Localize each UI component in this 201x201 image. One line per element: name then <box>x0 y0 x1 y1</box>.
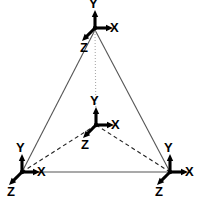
coordinate-frame-center-y-axis-label: Y <box>90 93 99 108</box>
coordinate-frame-center: YXZ <box>81 93 120 152</box>
coordinate-frame-center-x-axis-label: X <box>111 117 120 132</box>
coordinate-frame-top-x-axis-label: X <box>110 20 119 35</box>
coordinate-frame-top-origin <box>93 26 97 30</box>
coordinate-frame-bottom-right-origin <box>168 170 172 174</box>
coordinate-frame-top-z-axis-label: Z <box>80 40 88 55</box>
coordinate-frame-bottom-left: YXZ <box>7 140 46 199</box>
coordinate-frame-bottom-right-x-axis-label: X <box>185 164 194 179</box>
frames-layer: YXZYXZYXZYXZ <box>7 0 194 199</box>
coordinate-frame-bottom-left-origin <box>20 170 24 174</box>
edge-apex-bottom-right <box>95 30 170 172</box>
coordinate-frame-bottom-right: YXZ <box>155 140 194 199</box>
coordinate-frame-top-y-axis-label: Y <box>89 0 98 11</box>
coordinate-frame-bottom-right-y-axis-label: Y <box>164 140 173 155</box>
edge-center-bottom-right <box>96 125 170 172</box>
coordinate-frame-top: YXZ <box>80 0 119 55</box>
coordinate-frame-bottom-right-y-axis-arrowhead <box>167 154 173 161</box>
coordinate-frame-center-origin <box>94 123 98 127</box>
coordinate-frame-top-y-axis-arrowhead <box>92 10 98 17</box>
coordinate-frame-center-z-axis-label: Z <box>81 137 89 152</box>
tetrahedron-diagram: YXZYXZYXZYXZ <box>0 0 201 201</box>
coordinate-frame-center-y-axis-arrowhead <box>93 107 99 114</box>
figure-canvas: YXZYXZYXZYXZ <box>0 0 201 201</box>
coordinate-frame-bottom-left-y-axis-arrowhead <box>19 154 25 161</box>
coordinate-frame-bottom-left-y-axis-label: Y <box>16 140 25 155</box>
coordinate-frame-bottom-right-z-axis-label: Z <box>155 184 163 199</box>
coordinate-frame-bottom-left-z-axis-label: Z <box>7 184 15 199</box>
coordinate-frame-bottom-left-x-axis-label: X <box>37 164 46 179</box>
